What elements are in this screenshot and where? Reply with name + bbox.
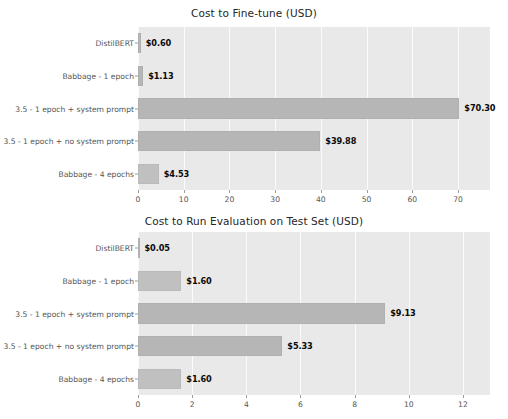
x-axis-tick-mark (192, 395, 193, 398)
x-axis-tick-mark (246, 395, 247, 398)
x-axis-tick-mark (409, 395, 410, 398)
x-axis-tick-label: 12 (458, 400, 468, 409)
bar[interactable] (138, 33, 141, 53)
bar-row: $1.13 (138, 66, 490, 86)
bar-row: $1.60 (138, 369, 490, 389)
y-axis-tick-label: 3.5 - 1 epoch + system prompt (15, 104, 134, 113)
bar-value-label: $1.60 (186, 374, 211, 384)
x-axis-tick-label: 0 (136, 195, 141, 204)
x-axis-tick-label: 70 (453, 195, 463, 204)
plot-area: $0.60$1.13$70.30$39.88$4.530102030405060… (138, 27, 490, 190)
y-axis-tick-label: 3.5 - 1 epoch + no system prompt (3, 137, 134, 146)
bar-row: $0.60 (138, 33, 490, 53)
bar[interactable] (138, 303, 385, 323)
x-axis-tick-mark (275, 190, 276, 193)
x-axis-tick-label: 2 (190, 400, 195, 409)
bar-row: $5.33 (138, 336, 490, 356)
x-axis-tick-label: 30 (270, 195, 280, 204)
y-axis-tick-labels: DistilBERTBabbage - 1 epoch3.5 - 1 epoch… (0, 205, 134, 419)
bar-value-label: $4.53 (164, 169, 189, 179)
y-axis-tick-label: Babbage - 4 epochs (58, 374, 134, 383)
bar-value-label: $39.88 (325, 136, 356, 146)
y-axis-tick-label: 3.5 - 1 epoch + no system prompt (3, 342, 134, 351)
x-axis-tick-label: 4 (244, 400, 249, 409)
x-axis-tick-mark (367, 190, 368, 193)
bar-value-label: $1.13 (148, 71, 173, 81)
x-axis-tick-label: 0 (136, 400, 141, 409)
x-axis-tick-label: 40 (316, 195, 326, 204)
bar[interactable] (138, 98, 459, 118)
x-axis-tick-mark (300, 395, 301, 398)
bar-value-label: $9.13 (390, 308, 415, 318)
figure-canvas: Cost to Fine-tune (USD) DistilBERTBabbag… (0, 0, 508, 419)
x-axis-tick-label: 10 (179, 195, 189, 204)
bar-value-label: $0.60 (146, 38, 171, 48)
bar[interactable] (138, 238, 140, 258)
y-axis-tick-labels: DistilBERTBabbage - 1 epoch3.5 - 1 epoch… (0, 0, 134, 210)
bar-value-label: $0.05 (145, 243, 170, 253)
y-axis-tick-label: 3.5 - 1 epoch + system prompt (15, 309, 134, 318)
bar-row: $9.13 (138, 303, 490, 323)
bar-value-label: $5.33 (287, 341, 312, 351)
x-axis-tick-label: 8 (352, 400, 357, 409)
bar-row: $4.53 (138, 164, 490, 184)
y-axis-tick-label: DistilBERT (96, 39, 134, 48)
x-axis-tick-label: 10 (404, 400, 414, 409)
subplot-evaluation-cost: Cost to Run Evaluation on Test Set (USD)… (0, 205, 508, 419)
x-axis-tick-label: 6 (298, 400, 303, 409)
x-axis-tick-label: 50 (362, 195, 372, 204)
y-axis-tick-label: DistilBERT (96, 244, 134, 253)
x-axis-tick-mark (184, 190, 185, 193)
bar-row: $1.60 (138, 271, 490, 291)
x-axis-tick-mark (138, 190, 139, 193)
x-axis-tick-label: 60 (407, 195, 417, 204)
bar[interactable] (138, 369, 181, 389)
x-axis-tick-mark (355, 395, 356, 398)
bar-row: $70.30 (138, 98, 490, 118)
bar[interactable] (138, 336, 282, 356)
bar[interactable] (138, 66, 143, 86)
x-axis-tick-mark (229, 190, 230, 193)
y-axis-tick-label: Babbage - 4 epochs (58, 169, 134, 178)
x-axis-tick-mark (321, 190, 322, 193)
bar[interactable] (138, 164, 159, 184)
bar-value-label: $70.30 (464, 103, 495, 113)
bar[interactable] (138, 131, 320, 151)
subplot-fine-tune-cost: Cost to Fine-tune (USD) DistilBERTBabbag… (0, 0, 508, 210)
bar[interactable] (138, 271, 181, 291)
x-axis-tick-label: 20 (225, 195, 235, 204)
x-axis-tick-mark (458, 190, 459, 193)
x-axis-tick-mark (138, 395, 139, 398)
bar-value-label: $1.60 (186, 276, 211, 286)
y-axis-tick-label: Babbage - 1 epoch (62, 276, 134, 285)
x-axis-tick-mark (463, 395, 464, 398)
y-axis-tick-label: Babbage - 1 epoch (62, 71, 134, 80)
x-axis-tick-mark (412, 190, 413, 193)
plot-area: $0.05$1.60$9.13$5.33$1.60024681012 (138, 232, 490, 395)
bar-row: $0.05 (138, 238, 490, 258)
bar-row: $39.88 (138, 131, 490, 151)
